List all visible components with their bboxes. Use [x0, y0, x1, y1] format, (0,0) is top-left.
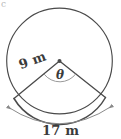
geometry-figure: c 9 m θ 17 m — [0, 0, 121, 139]
sector-arc — [14, 98, 106, 125]
center-point-dot — [58, 59, 62, 63]
corner-artifact-glyph: c — [1, 0, 9, 7]
central-angle-theta-label: θ — [56, 69, 64, 81]
arc-length-label: 17 m — [42, 124, 79, 137]
radius-right-line — [60, 61, 106, 98]
